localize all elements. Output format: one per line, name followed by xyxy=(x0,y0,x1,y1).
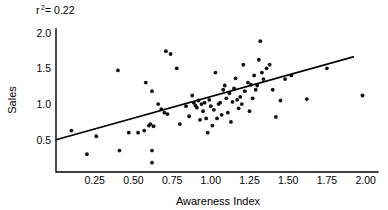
data-point xyxy=(127,131,131,135)
data-point xyxy=(149,122,153,126)
data-point xyxy=(156,102,160,106)
y-axis-tick-labels: 0.51.01.52.0 xyxy=(36,27,51,146)
data-point xyxy=(257,58,261,62)
data-point xyxy=(152,124,156,128)
data-point xyxy=(175,66,179,70)
data-point xyxy=(206,131,210,135)
x-tick-label: 2.00 xyxy=(355,174,376,186)
data-point xyxy=(238,95,242,99)
axes-group xyxy=(56,29,378,172)
data-point xyxy=(279,99,283,103)
data-point xyxy=(361,94,365,98)
scatter-chart-figure: 0.51.01.52.0 0.250.500.751.001.251.501.7… xyxy=(0,0,388,210)
data-point xyxy=(207,98,211,102)
data-point xyxy=(248,109,252,113)
y-tick-label: 0.5 xyxy=(36,134,51,146)
y-tick-label: 2.0 xyxy=(36,27,51,39)
x-tick-label: 1.50 xyxy=(278,174,299,186)
data-point xyxy=(214,71,218,75)
data-point xyxy=(169,52,173,56)
data-point xyxy=(262,77,266,81)
r-squared-base: r xyxy=(36,4,40,16)
x-axis-tick-labels: 0.250.500.751.001.251.501.752.00 xyxy=(84,174,376,186)
data-point xyxy=(240,102,244,106)
data-point xyxy=(70,129,74,133)
x-tick-label: 1.75 xyxy=(317,174,338,186)
x-tick-label: 1.00 xyxy=(201,174,222,186)
data-point xyxy=(224,96,228,100)
r-squared-annotation: r 2 = 0.22 xyxy=(36,4,75,17)
data-point xyxy=(142,129,146,133)
data-point xyxy=(198,118,202,122)
data-point xyxy=(258,39,262,43)
data-point xyxy=(268,63,272,67)
x-tick-label: 1.25 xyxy=(239,174,260,186)
data-point xyxy=(166,112,170,116)
data-point xyxy=(203,101,207,105)
data-point xyxy=(209,104,213,108)
data-point xyxy=(212,108,216,112)
y-axis-title: Sales xyxy=(6,86,18,114)
data-point xyxy=(251,96,255,100)
data-point xyxy=(150,89,154,93)
x-tick-label: 0.50 xyxy=(123,174,144,186)
data-point xyxy=(187,114,191,118)
y-tick-label: 1.5 xyxy=(36,62,51,74)
data-point xyxy=(164,49,168,53)
axis-lines xyxy=(56,29,378,172)
data-point xyxy=(201,109,205,113)
data-point xyxy=(223,84,227,88)
data-point xyxy=(210,124,214,128)
data-point xyxy=(265,66,269,70)
data-point xyxy=(260,71,264,75)
data-point xyxy=(254,88,258,92)
data-point xyxy=(150,149,154,153)
data-point xyxy=(235,98,239,102)
data-point xyxy=(221,88,225,92)
data-point xyxy=(190,94,194,98)
data-points-group xyxy=(70,39,365,164)
data-point xyxy=(144,81,148,85)
data-point xyxy=(136,131,140,135)
y-tick-label: 1.0 xyxy=(36,98,51,110)
data-point xyxy=(94,134,98,138)
data-point xyxy=(116,69,120,73)
data-point xyxy=(118,149,122,153)
data-point xyxy=(184,104,188,108)
data-point xyxy=(283,77,287,81)
data-point xyxy=(229,120,233,124)
data-point xyxy=(226,111,230,115)
data-point xyxy=(237,106,241,110)
data-point xyxy=(220,113,224,117)
data-point xyxy=(150,161,154,165)
r-squared-value: = 0.22 xyxy=(45,4,75,16)
data-point xyxy=(215,116,219,120)
data-point xyxy=(246,81,250,85)
data-point xyxy=(204,116,208,120)
data-point xyxy=(243,89,247,93)
regression-trendline xyxy=(56,57,353,140)
data-point xyxy=(305,97,309,101)
data-point xyxy=(271,88,275,92)
data-point xyxy=(234,76,238,80)
chart-canvas: 0.51.01.52.0 0.250.500.751.001.251.501.7… xyxy=(0,0,388,210)
data-point xyxy=(195,106,199,110)
x-axis-title: Awareness Index xyxy=(176,195,261,207)
data-point xyxy=(178,122,182,126)
data-point xyxy=(325,66,329,70)
data-point xyxy=(85,152,89,156)
data-point xyxy=(218,101,222,105)
x-tick-label: 0.75 xyxy=(162,174,183,186)
data-point xyxy=(231,100,235,104)
data-point xyxy=(241,63,245,67)
x-tick-label: 0.25 xyxy=(84,174,105,186)
data-point xyxy=(274,115,278,119)
data-point xyxy=(252,74,256,78)
